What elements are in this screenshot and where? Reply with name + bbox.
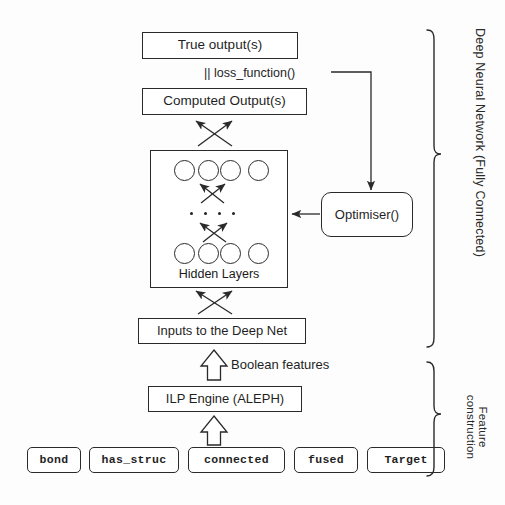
ellipsis-dot-4	[232, 212, 235, 215]
hidden-node-top-3	[220, 160, 241, 181]
predicate-label-fused: fused	[308, 454, 344, 466]
loss-function-label: || loss_function()	[204, 66, 295, 80]
predicate-box-connected: connected	[188, 447, 285, 473]
predicate-label-connected: connected	[204, 454, 269, 466]
boolean-features-label: Boolean features	[231, 357, 329, 372]
hidden-to-output-arrows	[196, 121, 232, 146]
predicate-box-target: Target	[367, 447, 445, 473]
ellipsis-dot-2	[204, 212, 207, 215]
predicate-box-has-struc: has_struc	[89, 447, 179, 473]
optimiser-label: Optimiser()	[335, 208, 399, 222]
hidden-node-bottom-3	[220, 243, 241, 264]
hidden-node-bottom-4	[248, 243, 269, 264]
predicate-box-bond: bond	[27, 447, 81, 473]
hidden-node-bottom-1	[174, 243, 195, 264]
ellipsis-dot-3	[218, 212, 221, 215]
inputs-to-hidden-arrows	[196, 291, 232, 314]
hidden-node-top-1	[174, 160, 195, 181]
feature-construction-line-1: Feature	[477, 406, 489, 447]
predicates-to-ilp-block-arrow	[201, 416, 227, 445]
true-output-label: True output(s)	[178, 38, 262, 52]
boolean-features-block-arrow	[201, 350, 227, 380]
hidden-node-top-4	[248, 160, 269, 181]
inputs-deep-net-label: Inputs to the Deep Net	[157, 324, 287, 338]
optimiser-box: Optimiser()	[321, 192, 413, 237]
bracket-label-deep-neural-network: Deep Neural Network (Fully Connected)	[473, 28, 487, 257]
hidden-node-top-2	[198, 160, 219, 181]
feature-construction-line-2: construction	[465, 395, 477, 459]
bracket-label-feature-construction: Feature construction	[464, 372, 489, 482]
predicate-label-bond: bond	[40, 454, 69, 466]
hidden-node-bottom-2	[198, 243, 219, 264]
hidden-layers-caption: Hidden Layers	[150, 267, 288, 281]
computed-output-label: Computed Output(s)	[163, 94, 285, 108]
predicate-label-has-struc: has_struc	[102, 454, 167, 466]
inputs-deep-net-box: Inputs to the Deep Net	[138, 318, 306, 344]
ilp-engine-box: ILP Engine (ALEPH)	[148, 386, 302, 412]
bracket-deep-neural-network	[427, 30, 441, 347]
ellipsis-dot-1	[190, 212, 193, 215]
predicate-box-fused: fused	[294, 447, 358, 473]
architecture-diagram: True output(s) || loss_function() Comput…	[0, 0, 505, 505]
loss-function-connector	[331, 72, 371, 190]
true-output-box: True output(s)	[142, 32, 298, 59]
computed-output-box: Computed Output(s)	[142, 88, 307, 115]
ilp-engine-label: ILP Engine (ALEPH)	[166, 392, 284, 406]
predicate-label-target: Target	[384, 454, 427, 466]
